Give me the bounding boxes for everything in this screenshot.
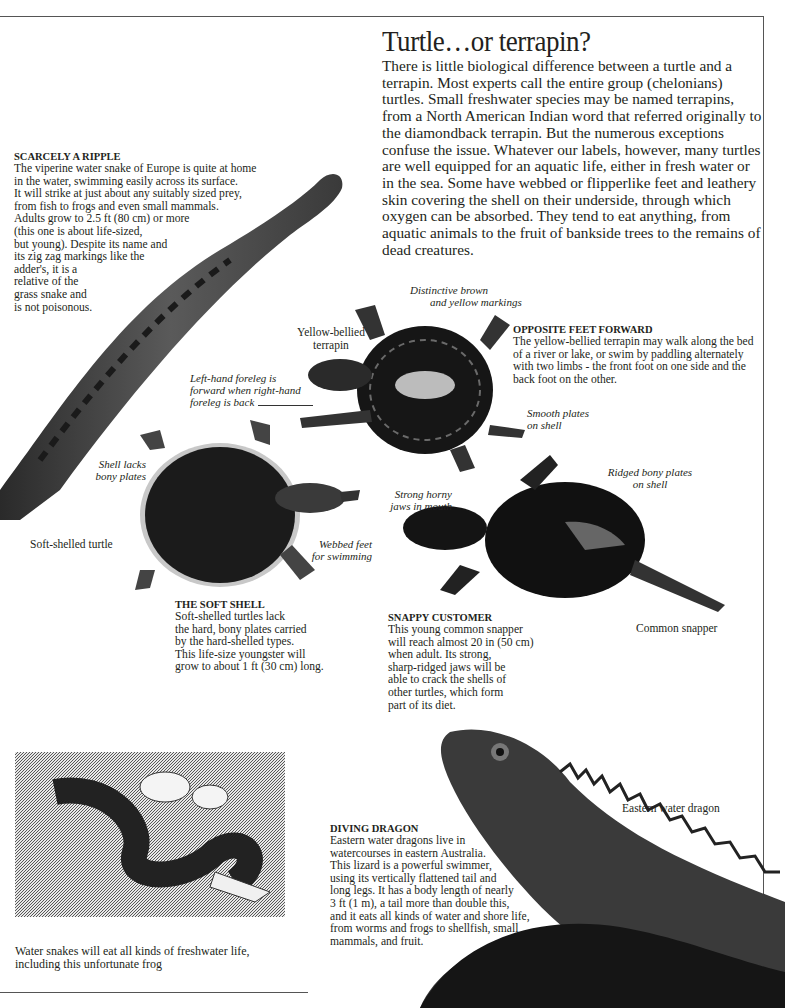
opposite-body: The yellow-bellied terrapin may walk alo… (513, 336, 763, 386)
label-ridged-plates: Ridged bony plates on shell (600, 466, 700, 490)
label-webbed-feet: Webbed feet for swimming (300, 538, 372, 562)
ripple-line: It will strike at just about any suitabl… (14, 188, 289, 201)
ripple-line: (this one is about life-sized, (14, 226, 289, 239)
label-left-foreleg: Left-hand foreleg is forward when right-… (190, 372, 301, 408)
label-strong-jaws: Strong horny jaws in mouth (360, 488, 452, 512)
label-smooth-plates: Smooth plates on shell (527, 407, 589, 431)
soft-shelled-turtle-photo (120, 420, 370, 590)
label-eastern-water-dragon: Eastern water dragon (622, 802, 720, 815)
ripple-caption: SCARCELY A RIPPLE The viperine water sna… (14, 150, 289, 314)
ripple-line: The viperine water snake of Europe is qu… (14, 163, 289, 176)
label-distinctive-markings: Distinctive brown and yellow markings (410, 284, 522, 308)
engraving-caption: Water snakes will eat all kinds of fresh… (15, 945, 250, 971)
label-shell-lacks-plates: Shell lacks bony plates (74, 458, 146, 482)
water-snake-engraving (15, 752, 285, 922)
ripple-line: its zig zag markings like the (14, 251, 289, 264)
snappy-body: This young common snapper will reach alm… (388, 624, 558, 712)
ripple-line: grass snake and (14, 289, 289, 302)
label-yellow-bellied-terrapin: Yellow-bellied terrapin (276, 326, 386, 351)
dragon-body: Eastern water dragons live in watercours… (330, 835, 560, 948)
soft-shell-caption: THE SOFT SHELL Soft-shelled turtles lack… (175, 598, 375, 674)
intro-paragraph: There is little biological difference be… (382, 58, 762, 258)
ripple-line: is not poisonous. (14, 302, 289, 315)
top-rule (0, 16, 764, 17)
snappy-customer-caption: SNAPPY CUSTOMER This young common snappe… (388, 611, 558, 712)
soft-shell-body: Soft-shelled turtles lack the hard, bony… (175, 611, 375, 674)
diving-dragon-caption: DIVING DRAGON Eastern water dragons live… (330, 822, 560, 948)
label-soft-shelled-turtle: Soft-shelled turtle (30, 538, 113, 551)
bottom-rule (0, 992, 308, 993)
opposite-feet-caption: OPPOSITE FEET FORWARD The yellow-bellied… (513, 323, 763, 386)
leader-line (258, 405, 313, 406)
label-common-snapper: Common snapper (636, 622, 717, 635)
ripple-body: The viperine water snake of Europe is qu… (14, 163, 289, 314)
page-title: Turtle…or terrapin? (382, 24, 591, 58)
